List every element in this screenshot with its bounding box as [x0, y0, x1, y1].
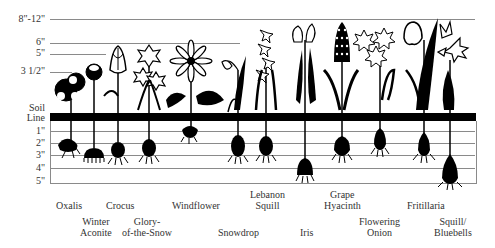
winter-aconite-icon	[84, 64, 104, 163]
fritillaria-icon	[404, 18, 438, 163]
label-flowering-onion: FloweringOnion	[359, 216, 400, 238]
label-grape-hyacinth: GrapeHyacinth	[324, 189, 361, 211]
label-oxalis: Oxalis	[56, 200, 82, 211]
label-winter-aconite: WinterAconite	[80, 216, 112, 238]
lebanon-squill-icon	[256, 30, 276, 163]
label-crocus: Crocus	[106, 200, 134, 211]
oxalis-icon	[55, 73, 85, 158]
label-fritillaria: Fritillaria	[407, 200, 445, 211]
iris-icon	[293, 24, 316, 183]
crocus-icon	[104, 46, 128, 165]
windflower-icon	[166, 40, 224, 144]
label-squill-bluebells: Squill/Bluebells	[434, 216, 472, 238]
label-snowdrop: Snowdrop	[218, 227, 259, 238]
label-windflower: Windflower	[172, 200, 220, 211]
glory-of-the-snow-icon	[134, 45, 165, 164]
grape-hyacinth-icon	[324, 22, 358, 163]
label-lebanon-squill: LebanonSquill	[250, 189, 285, 211]
label-iris: Iris	[300, 227, 313, 238]
label-glory-of-the-snow: Glory-of-the-Snow	[122, 216, 172, 238]
squill-bluebells-icon	[438, 22, 468, 190]
flowering-onion-icon	[353, 28, 395, 157]
snowdrop-icon	[222, 56, 248, 164]
